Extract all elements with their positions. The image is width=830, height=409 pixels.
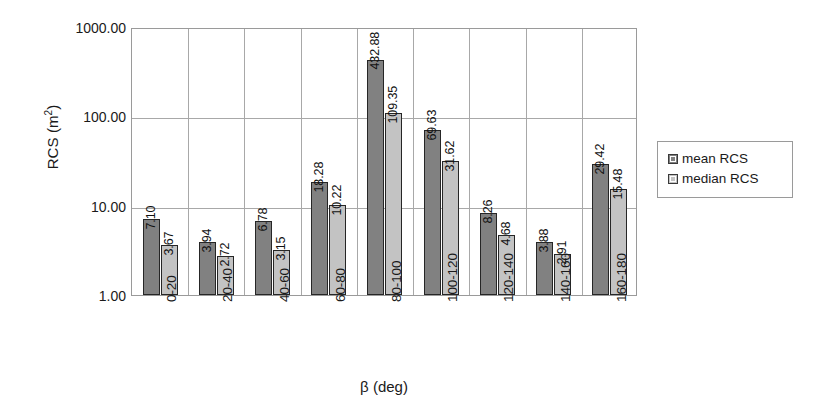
bar-value-label: 8.26 (481, 200, 494, 224)
bar-mean-rcs[interactable] (480, 213, 497, 295)
x-axis-tick-labels: 0-2020-4040-6060-8080-100100-120120-1401… (131, 296, 637, 371)
x-tick-label: 80-100 (390, 261, 404, 302)
bar-mean-rcs[interactable] (143, 219, 160, 295)
bar-group: 29.4215.48 (582, 29, 638, 295)
bar-value-label: 432.88 (369, 32, 382, 70)
legend-item[interactable]: mean RCS (658, 149, 792, 169)
x-tick-label: 160-180 (615, 253, 629, 302)
bar-value-label: 15.48 (612, 168, 625, 199)
x-tick-label: 60-80 (334, 268, 348, 302)
bar-value-label: 4.68 (499, 222, 512, 246)
bar-value-label: 3.15 (275, 237, 288, 261)
bar-value-label: 3.67 (162, 231, 175, 255)
y-tick-label: 1000.00 (40, 21, 126, 35)
bar-group: 8.264.68 (469, 29, 525, 295)
bar-value-label: 3.88 (538, 229, 551, 253)
bar-group: 69.6331.62 (413, 29, 469, 295)
bar-group: 7.103.67 (132, 29, 188, 295)
bar-value-label: 10.22 (331, 185, 344, 216)
bar-group: 432.88109.35 (357, 29, 413, 295)
bar-group: 6.783.15 (244, 29, 300, 295)
bar-group: 3.942.72 (188, 29, 244, 295)
x-tick-label: 40-60 (278, 268, 292, 302)
bar-value-label: 109.35 (387, 86, 400, 124)
legend-swatch-mean (668, 154, 678, 164)
bar-value-label: 3.94 (200, 228, 213, 252)
legend-swatch-median (668, 174, 678, 184)
bar-value-label: 2.72 (218, 243, 231, 267)
bar-group: 18.2810.22 (301, 29, 357, 295)
legend-label: mean RCS (682, 151, 748, 167)
chart-legend: mean RCSmedian RCS (657, 141, 793, 198)
bar-mean-rcs[interactable] (424, 130, 441, 295)
bar-value-label: 18.28 (313, 162, 326, 193)
x-tick-label: 140-160 (559, 253, 573, 302)
bar-mean-rcs[interactable] (255, 221, 272, 295)
bar-mean-rcs[interactable] (367, 60, 384, 296)
bar-value-label: 69.63 (425, 110, 438, 141)
bar-value-label: 31.62 (443, 141, 456, 172)
rcs-bar-chart-figure: RCS (m2) 1000.00100.0010.001.00 7.103.67… (0, 0, 830, 409)
y-tick-label: 1.00 (40, 289, 126, 303)
x-axis-title: β (deg) (131, 378, 637, 395)
legend-label: median RCS (682, 171, 759, 187)
y-tick-label: 10.00 (40, 200, 126, 214)
legend-item[interactable]: median RCS (658, 169, 792, 189)
y-axis-tick-labels: 1000.00100.0010.001.00 (40, 0, 126, 409)
bar-value-label: 7.10 (144, 206, 157, 230)
x-tick-label: 100-120 (446, 253, 460, 302)
x-tick-label: 20-40 (221, 268, 235, 302)
bar-value-label: 6.78 (257, 207, 270, 231)
x-tick-label: 0-20 (165, 275, 179, 302)
y-tick-label: 100.00 (40, 110, 126, 124)
bar-group: 3.882.91 (526, 29, 582, 295)
bar-mean-rcs[interactable] (592, 164, 609, 295)
bar-mean-rcs[interactable] (311, 182, 328, 295)
x-tick-label: 120-140 (502, 253, 516, 302)
bar-value-label: 29.42 (594, 144, 607, 175)
